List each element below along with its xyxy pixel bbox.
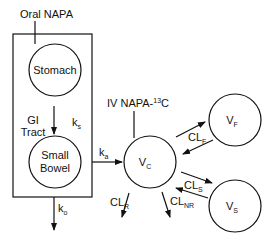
clnr-nonrenal-arrow [162, 192, 170, 217]
slow-peripheral-compartment-vs [209, 180, 261, 232]
clr-label: CLR [110, 196, 129, 210]
ka-label: ka [99, 146, 109, 160]
stomach-label: Stomach [33, 64, 76, 76]
central-compartment-vc [124, 136, 176, 188]
small-bowel-label-line1: Small [41, 149, 69, 161]
small-bowel-label-line2: Bowel [40, 162, 70, 174]
clf-label: CLF [188, 131, 206, 145]
pk-model-diagram: Oral NAPA Stomach GI Tract ks Small Bowe… [0, 0, 277, 234]
iv-napa-label: IV NAPA-13C [107, 97, 169, 109]
gi-label-line1: GI [27, 114, 39, 126]
oral-napa-label: Oral NAPA [20, 8, 74, 20]
cls-label: CLS [184, 179, 203, 193]
gi-label-line2: Tract [21, 126, 46, 138]
clnr-label: CLNR [170, 195, 194, 209]
vf-label: VF [226, 114, 238, 128]
vc-label: VC [139, 156, 151, 170]
fast-peripheral-compartment-vf [209, 94, 261, 146]
ko-label: ko [58, 202, 68, 216]
ks-label: ks [72, 116, 82, 130]
vs-label: VS [226, 200, 238, 214]
